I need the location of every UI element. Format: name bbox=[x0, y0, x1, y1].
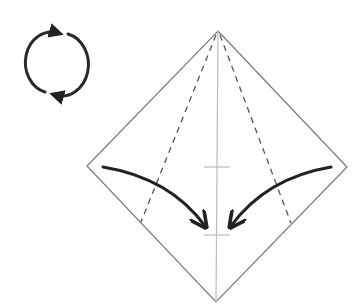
rotate-arc-right bbox=[55, 34, 88, 96]
origami-diagram bbox=[0, 0, 352, 308]
rotate-turn-over-icon bbox=[25, 32, 88, 96]
rotate-arc-left bbox=[25, 32, 58, 92]
